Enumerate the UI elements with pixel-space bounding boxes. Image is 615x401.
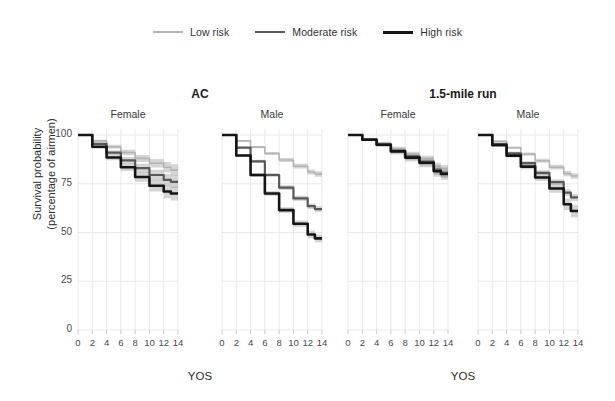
confidence-band bbox=[222, 135, 322, 177]
survival-curve-moderate-risk bbox=[222, 135, 322, 209]
panel-title-female: Female bbox=[338, 108, 458, 120]
x-axis-tick-label: 14 bbox=[440, 337, 456, 348]
chart-figure: Low riskModerate riskHigh risk Survival … bbox=[0, 0, 615, 401]
survival-curve-high-risk bbox=[348, 135, 448, 174]
legend-swatch-icon bbox=[153, 31, 183, 33]
legend-label: High risk bbox=[420, 26, 462, 38]
survival-curve-low-risk bbox=[222, 135, 322, 174]
survival-curve-low-risk bbox=[78, 135, 178, 170]
survival-curve-moderate-risk bbox=[348, 135, 448, 173]
x-axis-tick-label: 14 bbox=[170, 337, 186, 348]
x-axis-tick-label: 14 bbox=[314, 337, 330, 348]
x-axis-title: YOS bbox=[363, 370, 563, 382]
survival-curve-low-risk bbox=[348, 135, 448, 171]
y-axis-tick-label: 25 bbox=[46, 274, 72, 285]
legend-label: Moderate risk bbox=[292, 26, 357, 38]
x-axis-title: YOS bbox=[100, 370, 300, 382]
confidence-band bbox=[478, 135, 578, 201]
survival-curve-moderate-risk bbox=[78, 135, 178, 182]
survival-curve-low-risk bbox=[478, 135, 578, 176]
legend-swatch-icon bbox=[255, 31, 285, 33]
legend-swatch-icon bbox=[383, 31, 413, 34]
survival-curve-high-risk bbox=[222, 135, 322, 238]
group-title-ac: AC bbox=[80, 87, 320, 101]
y-axis-title: Survival probability (percentage of airm… bbox=[30, 64, 58, 284]
survival-curve-moderate-risk bbox=[478, 135, 578, 197]
confidence-band bbox=[348, 135, 448, 177]
legend-item-moderate-risk[interactable]: Moderate risk bbox=[255, 26, 357, 38]
confidence-band bbox=[78, 135, 178, 188]
y-axis-tick-label: 75 bbox=[46, 177, 72, 188]
y-axis-tick-label: 0 bbox=[46, 323, 72, 334]
confidence-band bbox=[478, 135, 578, 179]
legend-label: Low risk bbox=[190, 26, 229, 38]
chart-legend: Low riskModerate riskHigh risk bbox=[0, 26, 615, 38]
panel-title-female: Female bbox=[68, 108, 188, 120]
y-axis-title-line1: Survival probability bbox=[30, 64, 44, 284]
y-axis-tick-label: 50 bbox=[46, 226, 72, 237]
group-title-run: 1.5-mile run bbox=[343, 87, 583, 101]
confidence-band bbox=[348, 135, 448, 178]
confidence-band bbox=[348, 135, 448, 180]
y-axis-tick-label: 100 bbox=[46, 128, 72, 139]
confidence-band bbox=[78, 135, 178, 176]
survival-curve-high-risk bbox=[478, 135, 578, 211]
confidence-band bbox=[78, 135, 178, 201]
y-axis-title-line2: (percentage of airmen) bbox=[44, 64, 58, 284]
panel-title-male: Male bbox=[212, 108, 332, 120]
survival-curve-high-risk bbox=[78, 135, 178, 194]
confidence-band bbox=[222, 135, 322, 242]
legend-item-high-risk[interactable]: High risk bbox=[383, 26, 462, 38]
legend-item-low-risk[interactable]: Low risk bbox=[153, 26, 229, 38]
confidence-band bbox=[222, 135, 322, 212]
x-axis-tick-label: 14 bbox=[570, 337, 586, 348]
confidence-band bbox=[478, 135, 578, 217]
panel-title-male: Male bbox=[468, 108, 588, 120]
